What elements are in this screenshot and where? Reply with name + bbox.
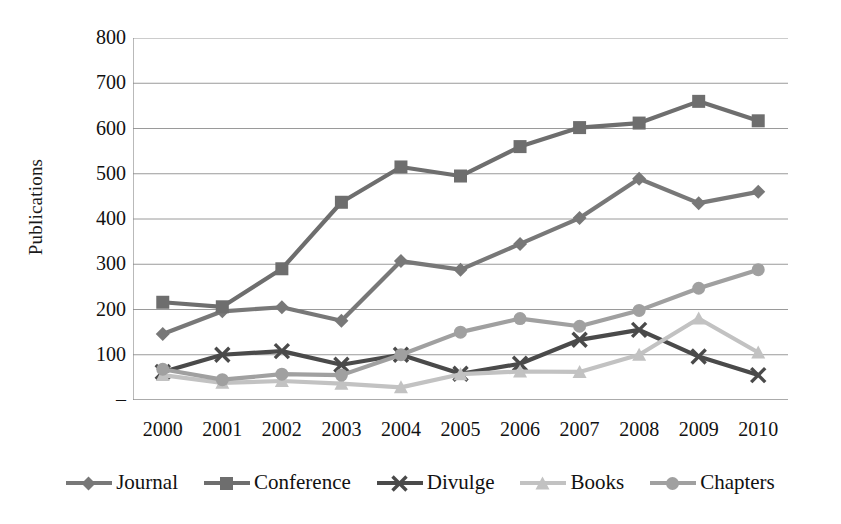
data-point-marker — [216, 373, 229, 386]
data-point-marker — [751, 185, 765, 199]
data-point-marker — [335, 196, 348, 209]
legend-label: Journal — [116, 470, 178, 495]
data-point-marker — [692, 312, 706, 325]
data-point-marker — [275, 368, 288, 381]
data-point-marker — [216, 300, 229, 313]
data-point-marker — [752, 263, 765, 276]
legend-marker-circle-icon — [650, 474, 696, 492]
data-point-marker — [454, 170, 467, 183]
y-tick-label: 400 — [66, 208, 126, 228]
legend-marker-triangle-icon — [520, 474, 566, 492]
legend-item-divulge[interactable]: Divulge — [377, 470, 495, 495]
legend-item-chapters[interactable]: Chapters — [650, 470, 775, 495]
data-point-marker — [666, 477, 679, 490]
data-point-marker — [156, 296, 169, 309]
y-axis-tick-labels: 800700600500400300200100– — [60, 0, 126, 420]
series-line — [163, 179, 758, 334]
legend-glyph — [391, 475, 408, 492]
y-tick-label: 800 — [66, 27, 126, 47]
y-tick-label: 500 — [66, 163, 126, 183]
data-point-marker — [514, 140, 527, 153]
legend-label: Books — [570, 470, 624, 495]
legend-glyph — [80, 475, 97, 492]
chart-legend: JournalConferenceDivulgeBooksChapters — [0, 470, 841, 495]
data-point-marker — [633, 117, 646, 130]
legend-glyph — [218, 475, 235, 492]
data-point-marker — [752, 114, 765, 127]
legend-label: Divulge — [427, 470, 495, 495]
y-tick-label: 600 — [66, 118, 126, 138]
plot-svg — [133, 38, 788, 400]
data-point-marker — [573, 320, 586, 333]
y-tick-label: 100 — [66, 344, 126, 364]
data-point-marker — [454, 326, 467, 339]
legend-label: Chapters — [700, 470, 775, 495]
legend-marker-x-icon — [377, 474, 423, 492]
legend-glyph — [534, 475, 551, 492]
y-tick-label: 300 — [66, 253, 126, 273]
y-tick-label: – — [66, 389, 126, 409]
data-point-marker — [573, 121, 586, 134]
data-point-marker — [514, 312, 527, 325]
publications-line-chart: Publications 800700600500400300200100– 2… — [0, 0, 841, 524]
data-point-marker — [692, 95, 705, 108]
data-point-marker — [394, 160, 407, 173]
legend-item-journal[interactable]: Journal — [66, 470, 178, 495]
data-point-marker — [454, 263, 468, 277]
data-point-marker — [513, 237, 527, 251]
x-tick-label: 2010 — [720, 418, 796, 441]
legend-glyph — [664, 475, 681, 492]
data-point-marker — [335, 369, 348, 382]
y-tick-label: 700 — [66, 72, 126, 92]
legend-item-conference[interactable]: Conference — [204, 470, 351, 495]
data-point-marker — [156, 363, 169, 376]
data-point-marker — [275, 262, 288, 275]
data-point-marker — [633, 304, 646, 317]
series-journal — [156, 172, 765, 341]
plot-area — [133, 38, 788, 400]
series-conference — [156, 95, 764, 313]
data-point-marker — [156, 327, 170, 341]
legend-label: Conference — [254, 470, 351, 495]
data-point-marker — [692, 282, 705, 295]
legend-marker-square-icon — [204, 474, 250, 492]
data-point-marker — [82, 476, 96, 490]
y-tick-label: 200 — [66, 299, 126, 319]
data-point-marker — [394, 348, 407, 361]
data-point-marker — [275, 300, 289, 314]
data-point-marker — [220, 477, 233, 490]
y-axis-title: Publications — [25, 127, 47, 287]
data-point-marker — [692, 196, 706, 210]
data-point-marker — [536, 476, 550, 489]
data-point-marker — [392, 476, 406, 490]
legend-marker-diamond-icon — [66, 474, 112, 492]
legend-item-books[interactable]: Books — [520, 470, 624, 495]
